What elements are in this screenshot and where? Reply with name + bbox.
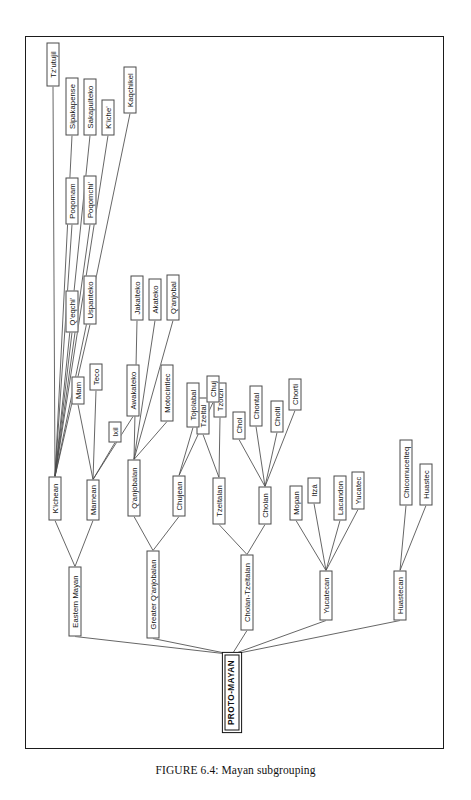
tree-node-tojolabal: Tojolabal (186, 382, 199, 427)
figure-frame: PROTO-MAYANHuastecanHuastecChicomucelteq… (25, 36, 444, 749)
tree-edge-proto-mayan-to-greater-qanjobalan (153, 638, 232, 654)
tree-node-akateko: Akateko (148, 278, 161, 320)
tree-node-uspanteko: Uspanteko (83, 275, 96, 324)
tree-node-kaqchikel: Kaqchikel (123, 66, 136, 113)
tree-node-tzeltalan: Tzeltalan (212, 477, 225, 524)
tree-node-jakalteko: Jakalteko (130, 275, 143, 320)
figure-caption: FIGURE 6.4: Mayan subgrouping (0, 764, 471, 776)
tree-node-lacandon: Lacandon (333, 475, 346, 520)
tree-node-awakateko: Awakateko (126, 364, 139, 416)
tree-node-yucatec: Yucatec (351, 471, 364, 509)
tree-edge-kichean-to-tzutujil (53, 86, 55, 476)
tree-node-greater-qanjobalan: Greater Q'anjobalan (146, 550, 159, 638)
tree-node-yucatecan: Yucatecan (319, 570, 332, 620)
tree-edge-eastern-mayan-to-kichean (55, 520, 75, 566)
tree-node-qanjobal: Q'anjobal (166, 274, 179, 320)
tree-node-itza: Itzá (307, 477, 320, 503)
tree-diagram: PROTO-MAYANHuastecanHuastecChicomucelteq… (26, 37, 443, 748)
tree-edge-cholan-to-chol (239, 439, 265, 486)
tree-node-sakapulteko: Sakapulteko (83, 78, 96, 135)
tree-node-mam: Mam (71, 376, 84, 404)
tree-node-cholan: Cholan (258, 486, 271, 524)
tree-node-chuj: Chuj (206, 375, 219, 402)
tree-edge-proto-mayan-to-huastecan (232, 620, 400, 654)
tree-edge-cholan-to-cholti (265, 432, 277, 486)
tree-node-kiche: K'iche' (101, 99, 114, 135)
tree-node-cholti: Cholti (270, 400, 283, 432)
tree-node-chontal: Chontal (249, 385, 262, 426)
tree-edge-mamean-to-mam (78, 404, 93, 479)
tree-edges (26, 37, 443, 748)
tree-node-teco: Teco (89, 363, 102, 390)
tree-node-proto-mayan: PROTO-MAYAN (224, 654, 239, 730)
tree-edge-cholan-tzeltalan-to-tzeltalan (219, 524, 247, 554)
tree-node-chorti: Chorti (288, 378, 301, 410)
tree-node-poqomchi: Poqomchi' (83, 175, 96, 224)
tree-edge-cholan-tzeltalan-to-cholan (247, 524, 265, 554)
tree-node-eastern-mayan: Eastern Mayan (68, 566, 81, 636)
tree-node-chicomucelteq: Chicomucelteq (399, 439, 412, 505)
figure-page: PROTO-MAYANHuastecanHuastecChicomucelteq… (0, 0, 471, 800)
tree-node-qanjobalan: Q'anjobalan (127, 459, 140, 516)
tree-node-ixil: Ixil (108, 421, 121, 442)
tree-edge-yucatecan-to-mopan (296, 520, 326, 570)
tree-edge-mamean-to-ixil (93, 442, 115, 479)
tree-edge-eastern-mayan-to-mamean (75, 520, 93, 566)
tree-node-motocintlec: Motocintlec (160, 364, 173, 421)
tree-edge-tzeltalan-to-tzeltal (203, 434, 219, 477)
tree-edge-greater-qanjobalan-to-qanjobalan (134, 516, 153, 550)
tree-node-mopan: Mopan (289, 485, 302, 520)
tree-edge-yucatecan-to-lacandon (326, 520, 340, 570)
tree-node-huastecan: Huastecan (393, 570, 406, 620)
tree-node-sipakapense: Sipakapense (65, 77, 78, 135)
tree-node-kichean: K'ichean (48, 476, 61, 520)
tree-node-chol: Chol (232, 411, 245, 439)
tree-edge-greater-qanjobalan-to-chujean (153, 516, 179, 550)
tree-node-chujean: Chujean (172, 475, 185, 516)
tree-node-poqomam: Poqomam (65, 177, 78, 224)
tree-node-huastec: Huastec (419, 463, 432, 505)
tree-node-tzutujil: Tz'utujil (46, 42, 59, 86)
tree-edge-mamean-to-teco (93, 390, 96, 479)
tree-node-cholan-tzeltalan: Cholan-Tzeltalan (240, 554, 253, 630)
tree-edge-huastecan-to-chicomucelteq (400, 505, 406, 570)
tree-node-qeqchi: Q'eqchi' (65, 290, 78, 332)
tree-edge-qanjobalan-to-motocintlec (134, 421, 167, 459)
tree-edge-tzeltalan-to-tzotzil (219, 417, 220, 477)
tree-node-mamean: Mamean (86, 479, 99, 520)
